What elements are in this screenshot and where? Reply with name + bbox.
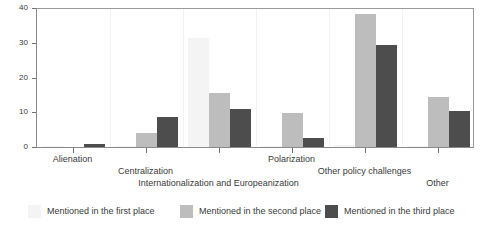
legend-swatch bbox=[325, 205, 338, 218]
legend-label: Mentioned in the first place bbox=[47, 205, 155, 218]
bar bbox=[407, 146, 428, 147]
legend-swatch bbox=[28, 205, 41, 218]
x-axis-tick-mark bbox=[365, 148, 366, 153]
bar bbox=[115, 146, 136, 147]
legend-item[interactable]: Mentioned in the second place bbox=[180, 203, 321, 219]
y-axis-tick-label: 30 bbox=[8, 38, 28, 48]
bar bbox=[157, 117, 178, 147]
legend-label: Mentioned in the third place bbox=[344, 205, 455, 218]
x-axis-tick-label: Alienation bbox=[53, 154, 93, 165]
y-axis-tick-label: 20 bbox=[8, 73, 28, 83]
grid-line bbox=[110, 9, 111, 147]
x-axis-tick-mark bbox=[438, 148, 439, 153]
x-axis-tick-label: Centralization bbox=[118, 166, 173, 177]
grid-line bbox=[329, 9, 330, 147]
bar bbox=[261, 146, 282, 147]
bar bbox=[303, 138, 324, 147]
x-axis-tick-mark bbox=[292, 148, 293, 153]
grid-line bbox=[256, 9, 257, 147]
x-axis-tick-mark bbox=[73, 148, 74, 153]
x-axis-tick-label: Internationalization and Europeanization bbox=[138, 178, 299, 189]
caption-fragment bbox=[30, 229, 330, 238]
x-axis-tick-mark bbox=[219, 148, 220, 153]
bar bbox=[84, 144, 105, 147]
x-axis-tick-label: Other bbox=[426, 178, 449, 189]
bar bbox=[230, 109, 251, 147]
plot-area bbox=[36, 8, 474, 148]
x-axis-tick-label: Other policy challenges bbox=[318, 166, 412, 177]
y-axis-tick-label: 0 bbox=[8, 142, 28, 152]
bar bbox=[282, 113, 303, 147]
chart-legend: Mentioned in the first placeMentioned in… bbox=[0, 203, 486, 223]
bar bbox=[376, 45, 397, 147]
x-axis-tick-label: Polarization bbox=[268, 154, 315, 165]
legend-swatch bbox=[180, 205, 193, 218]
bar bbox=[42, 146, 63, 147]
grid-line bbox=[402, 9, 403, 147]
bar bbox=[428, 97, 449, 147]
x-axis-tick-mark bbox=[146, 148, 147, 153]
bar-chart: 010203040 AlienationCentralizationIntern… bbox=[0, 0, 486, 239]
legend-item[interactable]: Mentioned in the third place bbox=[325, 203, 455, 219]
bar bbox=[136, 133, 157, 147]
bar bbox=[449, 111, 470, 147]
bar bbox=[334, 145, 355, 147]
y-axis-tick-label: 10 bbox=[8, 107, 28, 117]
y-axis-tick-label: 40 bbox=[8, 3, 28, 13]
legend-item[interactable]: Mentioned in the first place bbox=[28, 203, 155, 219]
legend-label: Mentioned in the second place bbox=[199, 205, 321, 218]
grid-line bbox=[183, 9, 184, 147]
bar bbox=[209, 93, 230, 147]
bar bbox=[188, 38, 209, 147]
bar bbox=[355, 14, 376, 147]
plot-wrapper: 010203040 AlienationCentralizationIntern… bbox=[0, 0, 486, 160]
